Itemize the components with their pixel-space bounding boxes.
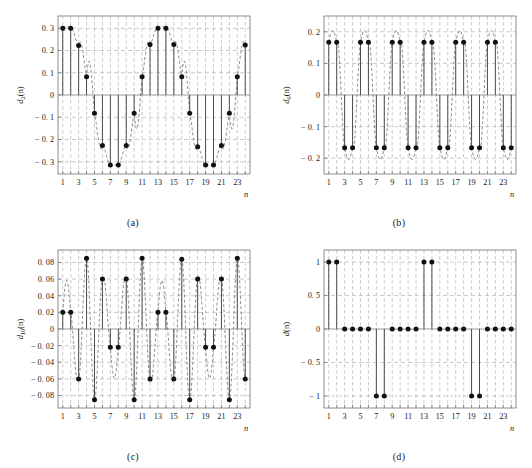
data-point-marker	[326, 40, 331, 45]
y-axis-title: d2(n)	[15, 86, 26, 104]
xtick-label: 5	[92, 412, 96, 421]
data-point-marker	[406, 327, 411, 332]
data-point-marker	[68, 310, 73, 315]
data-point-marker	[195, 144, 200, 149]
xtick-label: 13	[154, 178, 162, 187]
data-point-marker	[211, 345, 216, 350]
xtick-label: 3	[343, 178, 347, 187]
x-axis-title: n	[510, 424, 514, 433]
xtick-label: 19	[201, 178, 209, 187]
interpolating-curve	[63, 26, 245, 165]
xtick-label: 7	[374, 412, 378, 421]
data-point-marker	[334, 40, 339, 45]
plot-a: 0. 30. 20. 10− 0. 1− 0. 2− 0. 3135791113…	[0, 0, 266, 234]
xtick-label: 1	[327, 412, 331, 421]
xtick-label: 11	[404, 178, 412, 187]
ytick-label: − 0. 02	[31, 342, 54, 351]
xtick-label: 15	[436, 178, 444, 187]
ytick-label: − 0. 08	[31, 391, 54, 400]
xtick-label: 11	[138, 412, 146, 421]
xtick-label: 9	[390, 412, 394, 421]
data-point-marker	[84, 74, 89, 79]
ytick-label: − 0. 3	[35, 158, 54, 167]
data-point-marker	[453, 327, 458, 332]
data-point-marker	[350, 145, 355, 150]
y-axis-title: d(n)	[281, 322, 291, 336]
xtick-label: 9	[124, 412, 128, 421]
y-axis-title-argument: (n)	[15, 86, 25, 96]
data-point-marker	[171, 42, 176, 47]
ytick-label: 1	[316, 258, 320, 267]
data-point-marker	[350, 327, 355, 332]
ytick-label: 0. 2	[308, 28, 320, 37]
plot-b: 0. 20. 10− 0. 1− 0. 21357911131517192123…	[266, 0, 532, 234]
ytick-label: 0. 1	[308, 59, 320, 68]
y-axis-title-argument: (n)	[281, 322, 291, 332]
data-point-marker	[108, 163, 113, 168]
xtick-label: 17	[186, 178, 194, 187]
data-point-marker	[477, 145, 482, 150]
subcaption-b: (b)	[266, 217, 532, 228]
data-point-marker	[163, 26, 168, 31]
ytick-label: 0	[316, 91, 320, 100]
data-point-marker	[437, 327, 442, 332]
ytick-label: 0. 04	[38, 292, 54, 301]
data-point-marker	[219, 277, 224, 282]
ytick-label: − 0. 06	[31, 375, 54, 384]
ytick-label: 0. 2	[42, 46, 54, 55]
y-axis-title: d10(n)	[15, 319, 26, 340]
data-point-marker	[398, 327, 403, 332]
data-point-marker	[155, 26, 160, 31]
data-point-marker	[429, 40, 434, 45]
data-point-marker	[155, 310, 160, 315]
data-point-marker	[414, 327, 419, 332]
data-point-marker	[382, 145, 387, 150]
xtick-label: 23	[499, 412, 507, 421]
ytick-label: − 1	[309, 392, 320, 401]
data-point-marker	[390, 40, 395, 45]
data-point-marker	[374, 145, 379, 150]
xtick-label: 7	[108, 178, 112, 187]
xtick-label: 3	[77, 412, 81, 421]
data-point-marker	[203, 163, 208, 168]
xtick-label: 1	[61, 178, 65, 187]
xtick-label: 9	[390, 178, 394, 187]
xtick-label: 21	[217, 178, 225, 187]
subcaption-d: (d)	[266, 451, 532, 462]
xtick-label: 21	[483, 412, 491, 421]
data-point-marker	[171, 376, 176, 381]
data-point-marker	[100, 143, 105, 148]
xtick-label: 19	[467, 412, 475, 421]
plot-d: 10. 50− 0. 5− 11357911131517192123nd(n)	[266, 234, 532, 468]
data-point-marker	[116, 345, 121, 350]
data-point-marker	[342, 145, 347, 150]
xtick-label: 3	[343, 412, 347, 421]
data-point-marker	[187, 397, 192, 402]
data-point-marker	[243, 376, 248, 381]
data-point-marker	[461, 40, 466, 45]
ytick-label: 0. 06	[38, 275, 54, 284]
xtick-label: 11	[138, 178, 146, 187]
data-point-marker	[445, 327, 450, 332]
ytick-label: 0. 5	[308, 291, 320, 300]
xtick-label: 23	[499, 178, 507, 187]
data-point-marker	[235, 74, 240, 79]
data-point-marker	[366, 40, 371, 45]
data-point-marker	[124, 277, 129, 282]
data-point-marker	[140, 256, 145, 261]
y-axis-title-argument: (n)	[281, 86, 291, 96]
data-point-marker	[179, 74, 184, 79]
xtick-label: 11	[404, 412, 412, 421]
xtick-label: 15	[436, 412, 444, 421]
data-point-marker	[501, 145, 506, 150]
plot-c: 0. 080. 060. 040. 020− 0. 02− 0. 04− 0. …	[0, 234, 266, 468]
data-point-marker	[76, 376, 81, 381]
panel-c: 0. 080. 060. 040. 020− 0. 02− 0. 04− 0. …	[0, 234, 266, 468]
data-point-marker	[116, 163, 121, 168]
ytick-label: − 0. 2	[301, 154, 320, 163]
data-point-marker	[211, 163, 216, 168]
data-point-marker	[334, 260, 339, 265]
xtick-label: 13	[420, 412, 428, 421]
xtick-label: 17	[452, 178, 460, 187]
ytick-label: − 0. 1	[301, 123, 320, 132]
